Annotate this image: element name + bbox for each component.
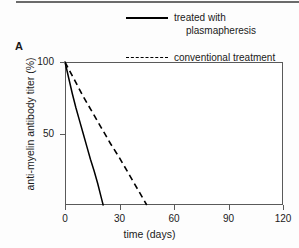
x-tick-label: 60 bbox=[161, 213, 187, 224]
legend-label-plasmapheresis-line1: treated with bbox=[174, 11, 226, 24]
x-tick-mark bbox=[65, 205, 66, 210]
chart-legend: treated with plasmapheresis conventional… bbox=[126, 11, 296, 64]
panel-label: A bbox=[15, 40, 23, 52]
x-tick-mark bbox=[283, 205, 284, 210]
x-tick-label: 120 bbox=[270, 213, 296, 224]
legend-solid-line-icon bbox=[126, 17, 168, 19]
legend-item-plasmapheresis-cont: plasmapheresis bbox=[126, 24, 296, 37]
top-divider-rule bbox=[16, 1, 299, 3]
x-axis-title-text: time (days) bbox=[124, 228, 176, 240]
y-tick-mark bbox=[60, 134, 65, 135]
x-tick-label: 90 bbox=[216, 213, 242, 224]
series-line-conventional bbox=[65, 62, 147, 205]
y-tick-mark bbox=[60, 62, 65, 63]
legend-label-plasmapheresis-line2: plasmapheresis bbox=[186, 24, 256, 37]
series-line-plasmapheresis bbox=[65, 62, 103, 205]
y-axis-title: anti-myelin antibody titer (%) bbox=[24, 49, 36, 199]
x-tick-mark bbox=[174, 205, 175, 210]
legend-item-plasmapheresis: treated with bbox=[126, 11, 296, 24]
x-tick-label: 0 bbox=[52, 213, 78, 224]
x-axis-title: time (days) bbox=[0, 228, 299, 240]
plot-canvas bbox=[65, 62, 283, 205]
x-tick-mark bbox=[229, 205, 230, 210]
x-tick-mark bbox=[120, 205, 121, 210]
x-tick-label: 30 bbox=[107, 213, 133, 224]
figure-panel: A treated with plasmapheresis convention… bbox=[0, 0, 299, 248]
y-axis-title-text: anti-myelin antibody titer (%) bbox=[24, 57, 36, 190]
legend-dashed-line-icon bbox=[126, 57, 168, 58]
